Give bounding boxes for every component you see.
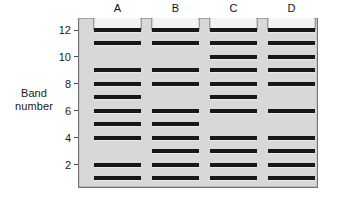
lane-a bbox=[94, 18, 141, 188]
band-d-10 bbox=[268, 55, 315, 59]
band-b-4 bbox=[152, 136, 199, 140]
band-c-2 bbox=[210, 163, 257, 167]
band-d-6 bbox=[268, 109, 315, 113]
band-b-5 bbox=[152, 122, 199, 126]
ruler-tick-label: 8 bbox=[65, 77, 71, 91]
ruler-tick-label: 6 bbox=[65, 104, 71, 118]
ruler-tick-label: 10 bbox=[59, 50, 71, 64]
band-a-8 bbox=[94, 82, 141, 86]
band-a-6 bbox=[94, 109, 141, 113]
band-a-4 bbox=[94, 136, 141, 140]
axis-label-line-2: number bbox=[8, 100, 60, 113]
band-c-8 bbox=[210, 82, 257, 86]
band-b-6 bbox=[152, 109, 199, 113]
band-a-7 bbox=[94, 95, 141, 99]
gel-slab: ABCD bbox=[78, 18, 318, 188]
band-a-11 bbox=[94, 41, 141, 45]
gel-diagram: Band number 12108642 ABCD bbox=[0, 0, 339, 204]
band-b-8 bbox=[152, 82, 199, 86]
band-d-12 bbox=[268, 28, 315, 32]
band-c-6 bbox=[210, 109, 257, 113]
ruler-tick-label: 4 bbox=[65, 131, 71, 145]
band-c-1 bbox=[210, 176, 257, 180]
band-b-2 bbox=[152, 163, 199, 167]
band-b-3 bbox=[152, 149, 199, 153]
band-c-11 bbox=[210, 41, 257, 45]
band-d-11 bbox=[268, 41, 315, 45]
band-d-1 bbox=[268, 176, 315, 180]
band-b-1 bbox=[152, 176, 199, 180]
lane-d bbox=[268, 18, 315, 188]
lane-letter-b: B bbox=[161, 2, 191, 14]
band-c-7 bbox=[210, 95, 257, 99]
band-d-2 bbox=[268, 163, 315, 167]
band-c-4 bbox=[210, 136, 257, 140]
band-b-9 bbox=[152, 68, 199, 72]
band-c-10 bbox=[210, 55, 257, 59]
band-c-12 bbox=[210, 28, 257, 32]
band-d-4 bbox=[268, 136, 315, 140]
band-b-11 bbox=[152, 41, 199, 45]
band-a-5 bbox=[94, 122, 141, 126]
ruler-tick-label: 12 bbox=[59, 23, 71, 37]
lane-letter-c: C bbox=[219, 2, 249, 14]
band-a-9 bbox=[94, 68, 141, 72]
band-c-3 bbox=[210, 149, 257, 153]
band-d-3 bbox=[268, 149, 315, 153]
lane-b bbox=[152, 18, 199, 188]
ruler-tick-label: 2 bbox=[65, 158, 71, 172]
lane-letter-d: D bbox=[277, 2, 307, 14]
band-b-12 bbox=[152, 28, 199, 32]
band-a-12 bbox=[94, 28, 141, 32]
lane-letter-a: A bbox=[103, 2, 133, 14]
band-d-9 bbox=[268, 68, 315, 72]
band-d-8 bbox=[268, 82, 315, 86]
band-a-2 bbox=[94, 163, 141, 167]
band-c-9 bbox=[210, 68, 257, 72]
band-a-1 bbox=[94, 176, 141, 180]
y-axis-label: Band number bbox=[8, 87, 60, 113]
axis-label-line-1: Band bbox=[8, 87, 60, 100]
lane-c bbox=[210, 18, 257, 188]
